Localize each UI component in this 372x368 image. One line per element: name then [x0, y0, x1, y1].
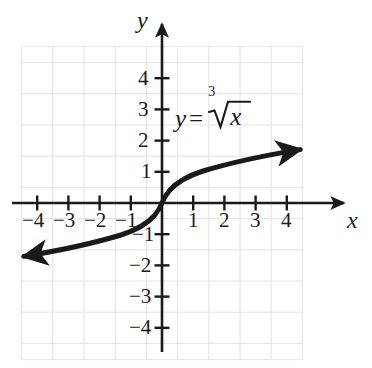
x-tick-label--2: −2	[84, 210, 106, 231]
x-tick-label--3: −3	[53, 210, 75, 231]
y-tick-label-3: 3	[138, 99, 149, 120]
y-tick-label--4: −4	[129, 317, 151, 338]
equation-relation: =	[189, 105, 203, 132]
y-tick-label--2: −2	[129, 255, 151, 276]
equation-annotation: y=3x	[175, 100, 251, 131]
radical-expression: 3x	[207, 100, 251, 131]
x-tick-label-2: 2	[219, 210, 230, 231]
x-tick-label-3: 3	[250, 210, 261, 231]
y-tick-label--1: −1	[132, 224, 154, 245]
y-tick-label-1: 1	[141, 161, 152, 182]
y-axis-label: y	[137, 8, 148, 32]
y-tick-label--3: −3	[129, 286, 151, 307]
radical-index: 3	[208, 85, 215, 99]
x-tick-label-4: 4	[281, 210, 292, 231]
graph-figure: −4 −3 −2 −1 1 2 3 4 4 3 2 1 −1 −2 −3 −4 …	[0, 0, 372, 368]
y-tick-label-4: 4	[138, 68, 149, 89]
equation-lhs: y	[175, 105, 186, 132]
x-tick-label-1: 1	[188, 210, 199, 231]
x-axis-label: x	[347, 208, 358, 232]
plot-canvas	[0, 0, 372, 368]
x-tick-label--4: −4	[22, 210, 44, 231]
radicand: x	[230, 104, 241, 129]
y-tick-label-2: 2	[138, 130, 149, 151]
